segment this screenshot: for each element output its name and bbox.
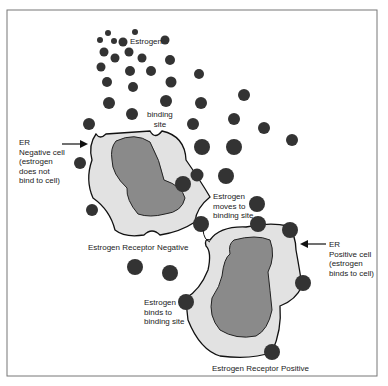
label-estrogen-binds: Estrogen binds to binding site — [144, 298, 184, 327]
label-er-negative-caption: Estrogen Receptor Negative — [88, 243, 189, 253]
label-er-positive-cell: ER Positive cell (estrogen binds to cell… — [329, 240, 374, 278]
label-estrogen: Estrogen — [130, 37, 162, 47]
diagram-canvas — [0, 0, 388, 386]
label-binding-site: binding site — [147, 110, 173, 129]
er-negative-cell — [89, 131, 210, 236]
label-er-negative-cell: ER Negative cell (estrogen does not bind… — [19, 138, 65, 186]
arrow-er-positive — [300, 240, 326, 248]
label-estrogen-moves: Estrogen moves to binding site — [213, 192, 253, 221]
label-er-positive-caption: Estrogen Receptor Positive — [212, 364, 309, 374]
er-positive-cell — [186, 224, 302, 357]
arrow-er-negative — [62, 140, 88, 148]
